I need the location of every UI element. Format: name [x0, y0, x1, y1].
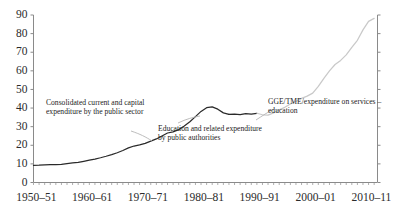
- y-tick-label: 10: [16, 157, 28, 169]
- x-tick-label: 2000–01: [295, 191, 336, 203]
- y-tick-label: 20: [16, 138, 28, 150]
- y-tick-label: 50: [16, 83, 28, 95]
- data-series-group: [34, 18, 375, 165]
- x-tick-label: 1950–51: [16, 191, 57, 203]
- y-axis-labels: 0102030405060708090: [16, 8, 28, 188]
- x-tick-label: 1990–91: [240, 191, 281, 203]
- y-tick-label: 70: [16, 45, 28, 57]
- y-tick-label: 80: [16, 27, 28, 39]
- x-tick-label: 1980–81: [184, 191, 225, 203]
- x-axis-labels: 1950–511960–611970–711980–811990–912000–…: [16, 191, 391, 203]
- annotation-gge-tme: GGE/TME/expenditure on services – educat…: [268, 97, 388, 116]
- series-line-1: [229, 113, 257, 114]
- y-tick-label: 0: [22, 176, 28, 188]
- y-tick-label: 90: [16, 8, 28, 20]
- x-tick-label: 1960–61: [72, 191, 113, 203]
- x-tick-label: 2010–11: [351, 191, 391, 203]
- y-tick-label: 40: [16, 101, 28, 113]
- y-tick-label: 60: [16, 64, 28, 76]
- leader-line-0: [131, 131, 152, 141]
- annotation-public-sector: Consolidated current and capital expendi…: [46, 98, 154, 117]
- annotation-education-authorities: Education and related expenditure by pub…: [158, 124, 262, 143]
- x-tick-label: 1970–71: [128, 191, 169, 203]
- y-tick-label: 30: [16, 120, 28, 132]
- line-chart: 0102030405060708090 1950–511960–611970–7…: [0, 0, 408, 217]
